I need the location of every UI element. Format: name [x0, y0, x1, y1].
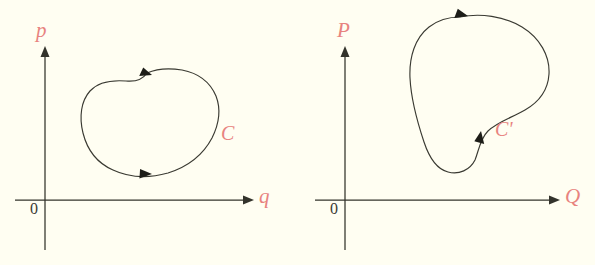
origin-label-qp: 0: [30, 201, 38, 217]
flow-arrow-top-c-prime: [454, 8, 469, 20]
P-axis-arrowhead: [341, 46, 350, 57]
Q-axis-arrowhead: [549, 196, 560, 205]
phase-plane-panel-qp: p q 0 C: [0, 0, 297, 265]
q-axis-label: q: [259, 186, 270, 207]
p-axis-arrowhead: [41, 46, 50, 57]
Q-axis-label: Q: [565, 186, 580, 207]
q-axis-arrowhead: [243, 196, 254, 205]
contour-label-c-prime: C': [495, 119, 513, 139]
P-axis-label: P: [337, 20, 350, 41]
figure-root: p q 0 C P Q 0 C': [0, 0, 595, 265]
flow-arrow-bottom-c: [139, 169, 152, 179]
p-axis-label: p: [36, 20, 47, 41]
phase-plane-panel-QP: P Q 0 C': [298, 0, 595, 265]
contour-label-c: C: [221, 123, 234, 143]
contour-curve-c: [81, 69, 219, 176]
flow-arrow-top-c: [139, 67, 153, 79]
contour-curve-c-prime: [410, 15, 549, 173]
origin-label-QP: 0: [330, 201, 338, 217]
